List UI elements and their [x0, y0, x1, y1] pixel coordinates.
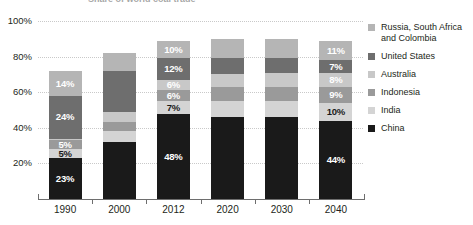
legend-swatch-icon [368, 24, 375, 31]
legend-label: United States [381, 51, 435, 62]
bar-segment-2020-australia[interactable] [211, 74, 244, 86]
bar-segment-2012-indonesia[interactable]: 6% [157, 90, 190, 101]
plot-area: 14%24%5%5%23%10%12%6%6%7%48%11%7%8%9%10%… [38, 21, 363, 199]
bar-2020[interactable] [211, 39, 244, 199]
segment-value-label: 5% [58, 149, 71, 159]
gridline [38, 92, 363, 94]
y-tick-label: 20% [0, 158, 32, 168]
bar-segment-2012-russia[interactable]: 10% [157, 41, 190, 59]
legend-swatch-icon [368, 89, 375, 96]
x-tick-label-2040: 2040 [306, 205, 366, 215]
x-axis-tick [201, 199, 202, 204]
gridline [38, 21, 363, 23]
segment-value-label: 6% [167, 91, 180, 101]
bar-segment-2000-india[interactable] [103, 131, 136, 142]
legend-swatch-icon [368, 53, 375, 60]
bar-segment-2020-united-states[interactable] [211, 58, 244, 74]
legend-swatch-icon [368, 107, 375, 114]
segment-value-label: 12% [164, 64, 182, 74]
bar-segment-2000-indonesia[interactable] [103, 122, 136, 131]
bar-segment-2012-china[interactable]: 48% [157, 114, 190, 199]
bar-segment-1990-united-states[interactable]: 24% [49, 96, 82, 139]
legend-item-india[interactable]: India [368, 105, 473, 116]
x-axis-line [38, 199, 365, 200]
bar-segment-2030-united-states[interactable] [265, 58, 298, 72]
stacked-bar-chart: Share of world coal trade 20%40%60%80%10… [0, 0, 473, 225]
x-axis-tick [146, 199, 147, 204]
bar-segment-2030-china[interactable] [265, 117, 298, 199]
bar-segment-2012-australia[interactable]: 6% [157, 80, 190, 91]
legend-label: Indonesia [381, 87, 420, 98]
segment-value-label: 24% [56, 112, 74, 122]
x-tick-label-2012: 2012 [143, 205, 203, 215]
bar-segment-2030-india[interactable] [265, 101, 298, 117]
bar-segment-1990-india[interactable]: 5% [49, 149, 82, 158]
legend-item-indonesia[interactable]: Indonesia [368, 87, 473, 98]
segment-value-label: 48% [164, 152, 182, 162]
segment-value-label: 10% [164, 45, 182, 55]
segment-value-label: 11% [327, 46, 345, 56]
bar-2012[interactable]: 10%12%6%6%7%48% [157, 41, 190, 199]
chart-title: Share of world coal trade [88, 0, 288, 3]
bar-segment-2030-russia[interactable] [265, 39, 298, 59]
gridline [38, 163, 363, 165]
bar-segment-2040-united-states[interactable]: 7% [319, 60, 352, 72]
gridline [38, 128, 363, 130]
y-tick-label: 60% [0, 87, 32, 97]
legend-item-united-states[interactable]: United States [368, 51, 473, 62]
bar-segment-2020-india[interactable] [211, 101, 244, 117]
legend-item-russia[interactable]: Russia, South Africa and Colombia [368, 22, 473, 44]
legend-label: India [381, 105, 401, 116]
x-tick-label-1990: 1990 [35, 205, 95, 215]
x-axis-tick [255, 199, 256, 204]
bar-segment-2040-indonesia[interactable]: 9% [319, 87, 352, 103]
bar-segment-2030-indonesia[interactable] [265, 87, 298, 101]
y-tick-label: 100% [0, 16, 32, 26]
legend-item-china[interactable]: China [368, 123, 473, 134]
bar-segment-2012-india[interactable]: 7% [157, 101, 190, 113]
segment-value-label: 7% [329, 62, 342, 72]
bar-segment-2012-united-states[interactable]: 12% [157, 58, 190, 79]
y-tick-label: 40% [0, 123, 32, 133]
bar-segment-2020-china[interactable] [211, 117, 244, 199]
x-tick-label-2000: 2000 [89, 205, 149, 215]
bar-segment-2000-china[interactable] [103, 142, 136, 199]
bar-segment-2040-india[interactable]: 10% [319, 103, 352, 121]
x-tick-label-2020: 2020 [198, 205, 258, 215]
legend-swatch-icon [368, 125, 375, 132]
segment-value-label: 23% [56, 174, 74, 184]
bar-segment-2000-united-states[interactable] [103, 71, 136, 112]
bar-segment-2020-russia[interactable] [211, 39, 244, 59]
bar-2030[interactable] [265, 39, 298, 199]
segment-value-label: 9% [329, 90, 342, 100]
bar-segment-2040-russia[interactable]: 11% [319, 41, 352, 61]
gridline [38, 57, 363, 59]
bar-segment-1990-russia[interactable]: 14% [49, 71, 82, 96]
bar-2000[interactable] [103, 53, 136, 199]
legend-label: Australia [381, 69, 416, 80]
bar-1990[interactable]: 14%24%5%5%23% [49, 71, 82, 199]
segment-value-label: 10% [327, 107, 345, 117]
segment-value-label: 7% [167, 103, 180, 113]
bar-segment-1990-china[interactable]: 23% [49, 158, 82, 199]
x-tick-label-2030: 2030 [252, 205, 312, 215]
chart-legend: Russia, South Africa and ColombiaUnited … [368, 22, 473, 141]
legend-label: China [381, 123, 405, 134]
y-tick-label: 80% [0, 52, 32, 62]
x-axis-right-cap [364, 194, 365, 200]
legend-item-australia[interactable]: Australia [368, 69, 473, 80]
bar-2040[interactable]: 11%7%8%9%10%44% [319, 41, 352, 199]
segment-value-label: 6% [167, 80, 180, 90]
x-axis-tick [309, 199, 310, 204]
bar-segment-2000-russia[interactable] [103, 53, 136, 71]
bar-segment-2000-australia[interactable] [103, 112, 136, 123]
bar-segment-2020-indonesia[interactable] [211, 87, 244, 101]
bar-segment-2040-china[interactable]: 44% [319, 121, 352, 199]
segment-value-label: 8% [329, 75, 342, 85]
x-axis-tick [92, 199, 93, 204]
bar-segment-2030-australia[interactable] [265, 73, 298, 87]
segment-value-label: 14% [56, 79, 74, 89]
legend-label: Russia, South Africa and Colombia [381, 22, 473, 44]
legend-swatch-icon [368, 71, 375, 78]
bar-segment-2040-australia[interactable]: 8% [319, 73, 352, 87]
